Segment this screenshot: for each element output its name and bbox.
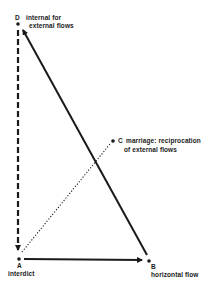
node-d-label-line2: external flows [29, 22, 74, 30]
node-b-label: horizontal flow [151, 271, 198, 279]
node-d-label-line1: internal for [26, 14, 61, 22]
node-d-dot [16, 22, 20, 26]
node-d-letter: D [15, 14, 20, 22]
node-c-dot [111, 139, 115, 143]
node-b-letter: B [151, 263, 156, 271]
diagram-canvas [0, 0, 210, 290]
node-a-dot [17, 257, 21, 261]
node-c-letter: C [118, 137, 123, 145]
node-c-label-line2: of external flows [124, 146, 177, 154]
edge-a-to-b [24, 259, 142, 260]
edge-a-to-c [22, 144, 110, 252]
node-c-label-line1: marriage: reciprocation [126, 137, 201, 145]
node-a-label: interdict [8, 270, 35, 278]
node-a-letter: A [17, 262, 22, 270]
